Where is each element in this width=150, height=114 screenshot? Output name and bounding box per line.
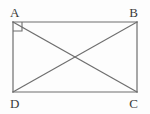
vertex-label-d: D bbox=[10, 96, 19, 111]
rectangle-diagram-svg: A B C D bbox=[0, 0, 150, 114]
vertex-label-b: B bbox=[129, 5, 138, 20]
vertex-label-a: A bbox=[10, 5, 20, 20]
vertex-label-c: C bbox=[129, 96, 138, 111]
geometry-figure: A B C D bbox=[0, 0, 150, 114]
